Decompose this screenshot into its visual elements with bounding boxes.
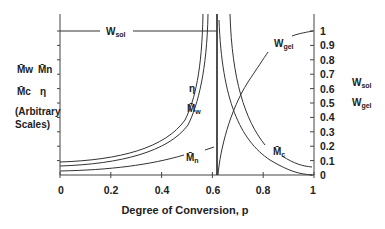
svg-text:0.2: 0.2 (320, 140, 335, 152)
mc-curve (230, 14, 265, 145)
curve-label-mw: M̄w (187, 103, 201, 115)
x-axis-label: Degree of Conversion, p (121, 204, 248, 216)
left-label-mw: M̄w (17, 64, 33, 75)
svg-text:0.6: 0.6 (320, 83, 335, 95)
mn-curve (60, 155, 184, 171)
curve-label-eta: η (189, 83, 195, 94)
svg-text:0.1: 0.1 (320, 155, 335, 167)
svg-text:0: 0 (58, 184, 64, 196)
mw-curve (60, 14, 208, 166)
right-axis-ticks (310, 31, 314, 175)
svg-text:1: 1 (310, 184, 316, 196)
svg-text:0.4: 0.4 (155, 184, 170, 196)
svg-text:0.9: 0.9 (320, 39, 335, 51)
eta-curve (60, 14, 203, 162)
left-label-mn: M̄n (38, 64, 52, 75)
wsol-decay-curve (219, 20, 312, 175)
curve-label-mn: M̄n (186, 152, 199, 164)
curve-label-wgel: Wgel (274, 38, 294, 51)
svg-text:0: 0 (320, 169, 326, 181)
mc-curve-tail (282, 156, 312, 167)
svg-text:0.4: 0.4 (320, 111, 335, 123)
x-tick-labels: 0 0.2 0.4 0.6 0.8 1 (58, 184, 316, 196)
svg-text:1: 1 (320, 25, 326, 37)
left-label-scales: Scales) (15, 119, 50, 130)
svg-text:0.2: 0.2 (104, 184, 119, 196)
left-label-eta: η (40, 86, 46, 97)
right-label-wgel: Wgel (352, 97, 372, 110)
wgel-curve-top (292, 31, 313, 36)
mn-curve-end (205, 147, 214, 150)
svg-text:0.5: 0.5 (320, 97, 335, 109)
curve-label-wsol: Wsol (106, 26, 126, 38)
right-tick-labels: 1 0.9 0.8 0.7 0.6 0.5 0.4 0.3 0.2 0.1 0 (320, 25, 335, 181)
right-label-wsol: Wsol (352, 77, 372, 89)
wgel-curve (218, 52, 268, 175)
svg-text:0.6: 0.6 (206, 184, 221, 196)
curve-label-mc: M̄c (273, 146, 285, 158)
chart-svg: Wsol Wgel η M̄w M̄n M̄c 1 0.9 0.8 0.7 0.… (0, 0, 385, 229)
left-label-arbitrary: (Arbitrary (15, 106, 61, 117)
svg-text:0.7: 0.7 (320, 68, 335, 80)
svg-text:0.8: 0.8 (320, 54, 335, 66)
svg-text:0.8: 0.8 (256, 184, 271, 196)
svg-text:0.3: 0.3 (320, 126, 335, 138)
left-label-mc: M̄c (17, 86, 31, 97)
